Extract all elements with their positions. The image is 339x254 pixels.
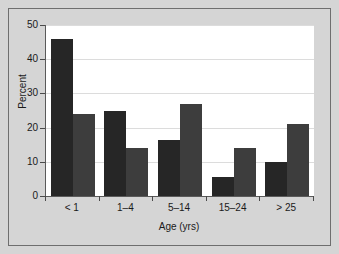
- bar: [104, 111, 126, 197]
- x-tick-label: 15–24: [219, 203, 247, 213]
- bar: [73, 114, 95, 196]
- x-axis-tick-marks: [45, 196, 314, 201]
- bar: [234, 148, 256, 196]
- y-tick-label: 50: [27, 20, 38, 30]
- x-tick-mark: [152, 196, 153, 201]
- bar: [287, 124, 309, 196]
- bar: [212, 177, 234, 196]
- x-tick-label: 1–4: [117, 203, 134, 213]
- x-tick-mark: [206, 196, 207, 201]
- y-tick-label: 40: [27, 54, 38, 64]
- bar: [158, 140, 180, 196]
- y-tick-label: 0: [32, 191, 38, 201]
- bar-group: [100, 25, 154, 196]
- y-tick-label: 10: [27, 157, 38, 167]
- x-tick-mark: [99, 196, 100, 201]
- plot-area: [45, 25, 314, 197]
- x-tick-mark: [45, 196, 46, 201]
- y-tick-label: 30: [27, 88, 38, 98]
- bar-group: [46, 25, 100, 196]
- x-tick-label: < 1: [65, 203, 79, 213]
- bar-group: [207, 25, 261, 196]
- bar-group: [260, 25, 314, 196]
- bar: [126, 148, 148, 196]
- x-axis-label: Age (yrs): [45, 221, 313, 232]
- x-tick-label: > 25: [276, 203, 296, 213]
- bar: [265, 162, 287, 196]
- x-tick-mark: [259, 196, 260, 201]
- bar: [180, 104, 202, 196]
- y-tick-label: 20: [27, 123, 38, 133]
- x-tick-mark: [313, 196, 314, 201]
- x-tick-label: 5–14: [168, 203, 190, 213]
- bar: [51, 39, 73, 196]
- y-axis-tick-labels: 01020304050: [18, 25, 38, 196]
- figure: Percent 01020304050 < 11–45–1415–24> 25 …: [0, 0, 339, 254]
- x-axis-tick-labels: < 11–45–1415–24> 25: [45, 203, 313, 217]
- bar-group: [153, 25, 207, 196]
